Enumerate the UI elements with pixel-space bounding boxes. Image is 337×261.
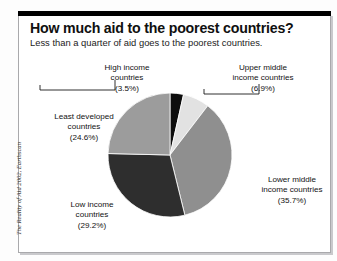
- label-lower-middle-line2: income countries: [261, 185, 322, 194]
- label-high-income-value: (3.5%): [86, 84, 168, 94]
- label-upper-middle-line1: Upper middle: [239, 63, 287, 72]
- source-credit: The Reality of Aid 2002, Earthscan: [15, 124, 22, 254]
- label-lower-middle: Lower middle income countries (35.7%): [240, 175, 337, 206]
- label-low-income-value: (29.2%): [50, 221, 134, 231]
- label-upper-middle: Upper middle income countries (6.9%): [214, 63, 312, 94]
- label-high-income-line2: countries: [111, 73, 144, 82]
- label-upper-middle-value: (6.9%): [214, 84, 312, 94]
- label-high-income-line1: High income: [105, 63, 150, 72]
- label-least-developed-value: (24.6%): [34, 133, 134, 143]
- label-low-income: Low income countries (29.2%): [50, 200, 134, 231]
- pie-chart: High income countries (3.5%) Upper middl…: [18, 14, 331, 253]
- label-upper-middle-line2: income countries: [232, 73, 293, 82]
- label-least-developed-line2: countries: [68, 122, 101, 131]
- label-lower-middle-line1: Lower middle: [268, 175, 316, 184]
- label-high-income: High income countries (3.5%): [86, 63, 168, 94]
- label-least-developed: Least developed countries (24.6%): [34, 112, 134, 143]
- label-least-developed-line1: Least developed: [54, 112, 113, 121]
- label-low-income-line1: Low income: [70, 200, 113, 209]
- infographic-canvas: How much aid to the poorest countries? L…: [0, 0, 337, 261]
- label-low-income-line2: countries: [76, 210, 109, 219]
- top-rule: [18, 11, 331, 16]
- label-lower-middle-value: (35.7%): [240, 196, 337, 206]
